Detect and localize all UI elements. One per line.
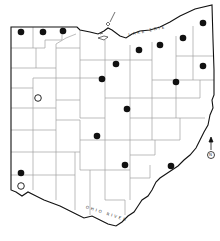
lake-erie-islands [98,12,115,40]
map-svg [0,0,220,241]
north-label: N [209,152,212,157]
ohio-county-map: N LAKE ERIE OHIO RIVER [0,0,220,241]
county-lines [11,26,214,215]
